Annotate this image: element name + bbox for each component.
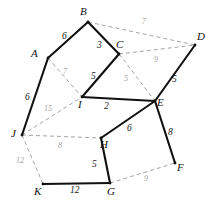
weight-label-j-i: 15: [44, 105, 52, 113]
weight-label-c-e: 5: [124, 75, 128, 83]
weight-label-b-d: 7: [142, 18, 146, 26]
vertex-label-h: H: [100, 139, 108, 150]
edge-j-h: [22, 135, 101, 138]
vertex-label-j: J: [11, 128, 16, 139]
vertex-dot-j: [21, 134, 24, 137]
vertex-dot-g: [109, 182, 112, 185]
weight-label-g-f: 9: [144, 175, 148, 183]
vertex-label-a: A: [31, 48, 38, 59]
vertex-dot-f: [174, 162, 177, 165]
vertex-label-f: F: [177, 162, 184, 173]
weight-label-d-e: 5: [172, 75, 177, 85]
edge-c-d: [119, 45, 195, 54]
vertex-dot-a: [47, 57, 50, 60]
weight-label-c-d: 9: [154, 56, 158, 64]
vertex-dot-d: [194, 44, 197, 47]
vertex-label-g: G: [107, 186, 115, 197]
vertex-label-d: D: [197, 31, 205, 42]
edge-c-i: [82, 54, 119, 97]
edge-a-i: [48, 58, 82, 97]
edge-k-g: [43, 183, 110, 184]
edge-g-f: [110, 163, 175, 183]
vertex-label-e: E: [157, 97, 164, 108]
vertex-label-i: I: [78, 99, 82, 110]
graph-diagram: 635258651267957158129 ABCDEFGHIJK: [0, 0, 217, 212]
weight-label-i-e: 2: [104, 102, 109, 112]
weight-label-a-j: 6: [25, 93, 30, 103]
weight-label-c-i: 5: [91, 72, 96, 82]
vertex-label-c: C: [116, 39, 123, 50]
vertex-dot-e: [154, 100, 157, 103]
vertex-dot-b: [87, 21, 90, 24]
weight-label-e-h: 6: [127, 124, 132, 134]
vertex-dot-k: [42, 183, 45, 186]
weight-label-k-g: 12: [70, 186, 80, 196]
vertex-label-b: B: [80, 6, 87, 17]
vertex-label-k: K: [34, 186, 41, 197]
edge-b-c: [88, 22, 119, 54]
weight-label-h-g: 5: [92, 160, 97, 170]
edge-i-e: [82, 97, 155, 101]
weight-label-a-b: 6: [62, 32, 67, 42]
weight-label-a-i: 7: [63, 68, 67, 76]
weight-label-j-k: 12: [16, 157, 24, 165]
edge-j-i: [22, 97, 82, 135]
vertex-dot-c: [118, 53, 121, 56]
edge-d-e: [155, 45, 195, 101]
edge-j-k: [22, 135, 43, 184]
weight-label-b-c: 3: [97, 41, 102, 51]
edge-a-b: [48, 22, 88, 58]
weight-label-e-f: 8: [168, 128, 173, 138]
weight-label-j-h: 8: [58, 142, 62, 150]
